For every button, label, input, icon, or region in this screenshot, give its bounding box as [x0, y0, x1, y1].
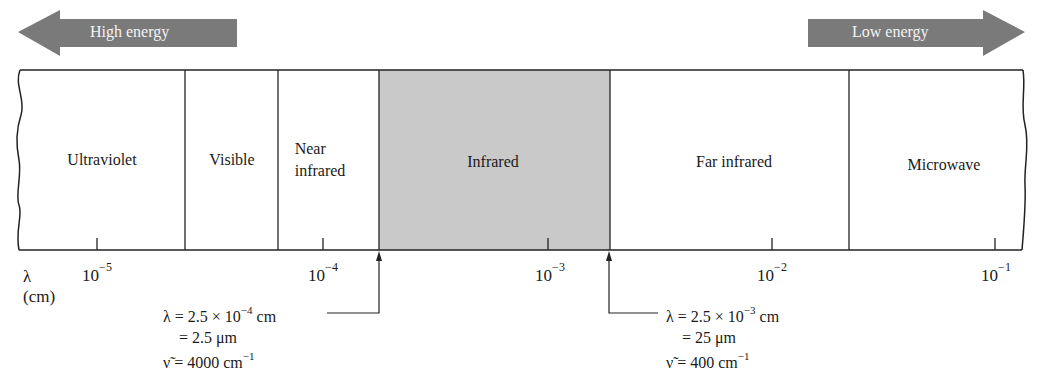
region-infrared: Infrared — [467, 151, 519, 173]
tick-exponent: −3 — [552, 260, 565, 274]
tick-base: 10 — [981, 266, 998, 285]
tick-exponent: −5 — [99, 260, 112, 274]
region-near-infrared-line1: Near — [295, 138, 346, 160]
tick-label-1e-5: 10−5 — [82, 263, 112, 286]
region-microwave: Microwave — [908, 154, 981, 176]
upper-bound-wavelength-um: = 25 μm — [666, 327, 779, 348]
upper-bound-wavenumber: ν̃ = 400 cm−1 — [666, 348, 779, 373]
tick-exponent: −1 — [998, 260, 1011, 274]
upper-bound-wavelength-cm: λ = 2.5 × 10−3 cm — [666, 302, 779, 327]
tick-exponent: −4 — [325, 260, 338, 274]
tick-exponent: −2 — [774, 260, 787, 274]
tick-base: 10 — [82, 266, 99, 285]
tick-base: 10 — [535, 266, 552, 285]
region-visible: Visible — [209, 149, 254, 171]
region-near-infrared: Near infrared — [295, 138, 346, 182]
tick-base: 10 — [308, 266, 325, 285]
upper-bound-annotation: λ = 2.5 × 10−3 cm = 25 μm ν̃ = 400 cm−1 — [666, 302, 779, 374]
lower-bound-annotation: λ = 2.5 × 10−4 cm = 2.5 μm ν̃ = 4000 cm−… — [163, 302, 276, 374]
lower-bound-wavelength-cm: λ = 2.5 × 10−4 cm — [163, 302, 276, 327]
tick-base: 10 — [757, 266, 774, 285]
lower-bound-wavenumber: ν̃ = 4000 cm−1 — [163, 348, 276, 373]
high-energy-label: High energy — [90, 23, 169, 41]
right-break-edge — [1022, 70, 1027, 250]
region-near-infrared-line2: infrared — [295, 160, 346, 182]
tick-label-1e-4: 10−4 — [308, 263, 338, 286]
lower-bound-arrowhead-icon — [376, 251, 382, 261]
upper-bound-arrowhead-icon — [606, 251, 612, 261]
spectrum-diagram-graphics — [0, 0, 1044, 387]
upper-bound-leader-line — [609, 258, 658, 313]
axis-lambda-symbol: λ — [23, 266, 31, 287]
low-energy-label: Low energy — [852, 23, 929, 41]
tick-label-1e-1: 10−1 — [981, 263, 1011, 286]
axis-unit-label: (cm) — [23, 286, 55, 307]
region-far-infrared: Far infrared — [696, 151, 772, 173]
lower-bound-wavelength-um: = 2.5 μm — [163, 327, 276, 348]
left-break-edge — [17, 70, 22, 250]
tick-label-1e-3: 10−3 — [535, 263, 565, 286]
region-ultraviolet: Ultraviolet — [67, 149, 136, 171]
tick-label-1e-2: 10−2 — [757, 263, 787, 286]
